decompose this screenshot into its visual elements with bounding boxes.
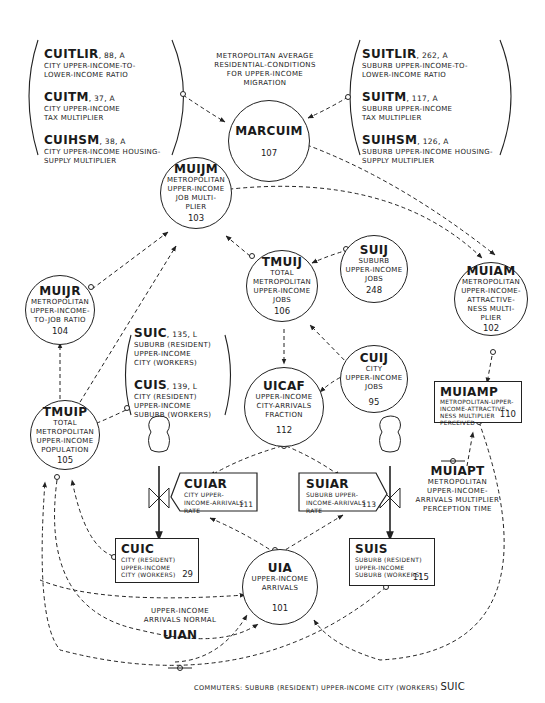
node-uicaf[interactable]: UICAF UPPER-INCOME CITY-ARRIVALS FRACTIO… <box>244 367 324 447</box>
level-cuic[interactable]: CUIC CITY (RESIDENT) UPPER-INCOME CITY (… <box>115 538 199 583</box>
rate-cuiar[interactable]: CUIAR CITY UPPER- INCOME-ARRIVALS RATE 1… <box>170 472 258 512</box>
commuter-constants-group: SUIC, 135, L SUBURB (RESIDENT)UPPER-INCO… <box>134 322 229 426</box>
node-muiam[interactable]: MUIAM METROPOLITAN UPPER-INCOME- ATTRACT… <box>454 262 528 336</box>
suburb-constants-group: SUITLIR, 262, A SUBURB UPPER-INCOME-TO-L… <box>362 43 507 172</box>
node-muijm[interactable]: MUIJM METROPOLITAN UPPER-INCOME JOB MULT… <box>160 157 232 229</box>
node-tmuip[interactable]: TMUIP TOTAL METROPOLITAN UPPER-INCOME PO… <box>30 400 100 470</box>
constant-suitm[interactable]: SUITM, 117, A SUBURB UPPER-INCOMETAX MUL… <box>362 86 507 123</box>
constant-cuitm[interactable]: CUITM, 37, A CITY UPPER-INCOMETAX MULTIP… <box>44 86 184 123</box>
node-muijr[interactable]: MUIJR METROPOLITAN UPPER-INCOME- TO-JOB … <box>25 275 95 345</box>
constant-suihsm[interactable]: SUIHSM, 126, A SUBURB UPPER-INCOME HOUSI… <box>362 129 507 166</box>
node-cuij[interactable]: CUIJ CITY UPPER-INCOME JOBS 95 <box>340 345 408 413</box>
city-constants-group: CUITLIR, 88, A CITY UPPER-INCOME-TO-LOWE… <box>44 43 184 172</box>
rate-suiar[interactable]: SUIAR SUBURB UPPER- INCOME-ARRIVALS RATE… <box>298 472 388 512</box>
node-marcuim[interactable]: MARCUIM 107 <box>228 100 310 182</box>
footer-abbr: SUIC <box>441 681 465 692</box>
footer-caption: COMMUTERS: SUBURB (RESIDENT) UPPER-INCOM… <box>194 681 465 692</box>
constant-suic[interactable]: SUIC, 135, L SUBURB (RESIDENT)UPPER-INCO… <box>134 322 229 368</box>
level-suis[interactable]: SUIS SUBURB (RESIDENT) UPPER-INCOME SUBU… <box>349 538 435 586</box>
constant-cuitlir[interactable]: CUITLIR, 88, A CITY UPPER-INCOME-TO-LOWE… <box>44 43 184 80</box>
constant-desc: CITY UPPER-INCOME-TO-LOWER-INCOME RATIO <box>44 62 184 80</box>
node-suij[interactable]: SUIJ SUBURB UPPER-INCOME JOBS 248 <box>340 235 408 303</box>
level-muiamp[interactable]: MUIAMP METROPOLITAN-UPPER- INCOME-ATTRAC… <box>434 381 522 423</box>
param-muiapt[interactable]: MUIAPT METROPOLITAN UPPER-INCOME- ARRIVA… <box>410 464 505 514</box>
constant-suitlir[interactable]: SUITLIR, 262, A SUBURB UPPER-INCOME-TO-L… <box>362 43 507 80</box>
constant-cuihsm[interactable]: CUIHSM, 38, A CITY UPPER-INCOME HOUSING-… <box>44 129 184 166</box>
param-uian[interactable]: UPPER-INCOME ARRIVALS NORMAL UIAN <box>135 607 225 642</box>
node-tmuij[interactable]: TMUIJ TOTAL METROPOLITAN UPPER-INCOME JO… <box>246 250 318 322</box>
marcuim-caption: METROPOLITAN AVERAGERESIDENTIAL-CONDITIO… <box>205 52 325 88</box>
node-uia[interactable]: UIA UPPER-INCOME ARRIVALS 101 <box>242 549 318 625</box>
constant-name: CUITLIR <box>44 47 99 61</box>
constant-cuis[interactable]: CUIS, 139, L CITY (RESIDENT)UPPER-INCOME… <box>134 374 229 420</box>
